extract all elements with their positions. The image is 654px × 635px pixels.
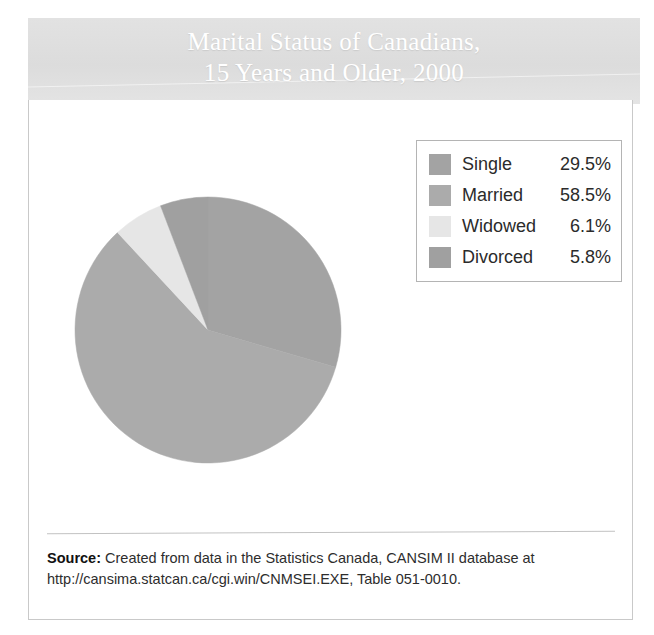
chart-page: Marital Status of Canadians, 15 Years an…	[0, 0, 654, 635]
legend-item-single[interactable]: Single 29.5%	[429, 149, 611, 180]
legend-item-widowed[interactable]: Widowed 6.1%	[429, 211, 611, 242]
chart-card: Single 29.5% Married 58.5% Widowed 6.1% …	[28, 100, 633, 620]
source-divider	[47, 531, 615, 534]
legend-swatch-widowed	[429, 216, 451, 237]
legend-value-widowed: 6.1%	[549, 216, 611, 237]
legend-swatch-divorced	[429, 247, 451, 268]
title-banner: Marital Status of Canadians, 15 Years an…	[28, 18, 640, 104]
title-line-1: Marital Status of Canadians,	[187, 28, 480, 55]
legend-swatch-married	[429, 185, 451, 206]
source-label: Source:	[47, 550, 101, 566]
legend: Single 29.5% Married 58.5% Widowed 6.1% …	[416, 140, 622, 282]
legend-value-married: 58.5%	[549, 185, 611, 206]
legend-label-married: Married	[462, 185, 549, 206]
legend-value-divorced: 5.8%	[549, 247, 611, 268]
title-line-2: 15 Years and Older, 2000	[28, 57, 640, 88]
source-text: Created from data in the Statistics Cana…	[47, 550, 535, 587]
source-note: Source: Created from data in the Statist…	[47, 548, 622, 590]
legend-item-married[interactable]: Married 58.5%	[429, 180, 611, 211]
legend-value-single: 29.5%	[549, 154, 611, 175]
pie-chart	[74, 140, 342, 512]
legend-item-divorced[interactable]: Divorced 5.8%	[429, 242, 611, 273]
legend-label-widowed: Widowed	[462, 216, 549, 237]
legend-swatch-single	[429, 154, 451, 175]
pie-slice-group	[75, 197, 341, 463]
legend-label-single: Single	[462, 154, 549, 175]
pie-chart-svg	[74, 140, 342, 512]
page-title: Marital Status of Canadians, 15 Years an…	[28, 26, 640, 88]
legend-label-divorced: Divorced	[462, 247, 549, 268]
